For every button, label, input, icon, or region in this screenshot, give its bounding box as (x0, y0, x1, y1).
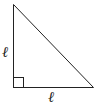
right-angle-marker (14, 78, 24, 88)
vertical-leg-label: ℓ (2, 43, 8, 61)
triangle-diagram: ℓ ℓ (0, 0, 98, 107)
horizontal-leg-label: ℓ (48, 88, 54, 106)
right-triangle (14, 5, 94, 88)
